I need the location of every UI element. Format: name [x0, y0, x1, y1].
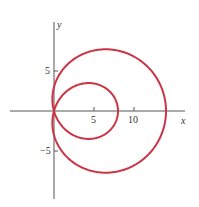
polar-plot: 5 10 5 −5 x y [0, 0, 199, 207]
x-axis-label: x [180, 115, 186, 126]
y-tick-label-neg5: −5 [40, 145, 51, 156]
y-tick-label-5: 5 [45, 65, 50, 76]
y-axis-label: y [56, 19, 62, 30]
x-tick-label-10: 10 [128, 114, 138, 125]
x-tick-label-5: 5 [91, 114, 96, 125]
